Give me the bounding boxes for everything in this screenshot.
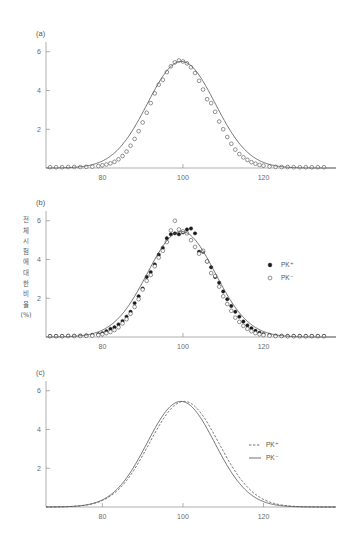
x-tick-label: 120	[258, 513, 270, 520]
data-point	[233, 148, 237, 152]
panel-b: (b)	[36, 198, 46, 207]
data-point	[310, 165, 314, 169]
data-point	[153, 264, 157, 268]
data-point	[189, 238, 193, 242]
legend-label: PK⁻	[266, 454, 279, 461]
x-tick-label: 80	[98, 343, 106, 350]
data-point	[213, 110, 217, 114]
data-point	[109, 162, 113, 166]
data-point	[169, 229, 173, 233]
data-point	[197, 252, 201, 256]
data-point	[209, 101, 213, 105]
data-point	[101, 163, 105, 167]
panel-a: (a)	[36, 29, 46, 38]
data-point	[161, 249, 165, 253]
data-point	[54, 165, 58, 169]
data-point	[258, 163, 262, 167]
data-point	[101, 332, 105, 336]
data-point	[177, 233, 180, 236]
data-point	[209, 271, 213, 275]
x-tick-label: 120	[258, 174, 270, 181]
y-axis-title-char: 율	[23, 301, 29, 309]
data-point	[189, 227, 192, 230]
x-tick-label: 120	[258, 343, 270, 350]
data-point	[230, 304, 233, 307]
y-axis-title-char: 에	[23, 257, 29, 266]
data-point	[304, 334, 308, 338]
data-point	[129, 312, 133, 316]
y-tick-label: 6	[37, 387, 41, 394]
data-point	[201, 88, 205, 92]
data-point	[237, 152, 241, 156]
figure-background	[0, 0, 351, 550]
data-point	[304, 165, 308, 169]
data-point	[105, 163, 109, 167]
panel-c: (c)	[36, 368, 45, 377]
y-axis-title-char: 체	[23, 227, 29, 235]
data-point	[193, 232, 196, 235]
data-point	[48, 165, 52, 169]
data-point	[113, 160, 117, 164]
data-point	[246, 158, 250, 162]
data-point	[149, 273, 153, 277]
y-tick-label: 4	[37, 256, 41, 263]
data-point	[205, 97, 209, 101]
y-axis-title-char: 한	[23, 280, 29, 288]
data-point	[185, 228, 188, 231]
y-axis-title-char: 험	[23, 248, 29, 256]
data-point	[113, 328, 117, 332]
data-point	[149, 101, 153, 105]
data-point	[133, 137, 137, 141]
data-point	[129, 144, 133, 148]
panel-c-label: (c)	[36, 368, 45, 377]
data-point	[105, 331, 109, 335]
data-point	[48, 334, 52, 338]
data-point	[141, 288, 145, 292]
data-point	[238, 315, 241, 318]
data-point	[262, 333, 266, 337]
data-point	[258, 332, 262, 336]
x-tick-label: 100	[177, 174, 189, 181]
y-axis-title-char: 시	[23, 237, 29, 245]
data-point	[117, 325, 121, 329]
figure-three-panel-distributions: (a) (b) (c) 전체시험에대한비율(%) 246801001202468…	[0, 0, 351, 550]
data-point	[254, 331, 258, 335]
y-axis-title-char: 비	[23, 289, 29, 298]
data-point	[133, 305, 137, 309]
y-axis-title-char: (%)	[20, 311, 31, 319]
y-tick-label: 4	[37, 87, 41, 94]
data-point	[233, 316, 237, 320]
data-point	[125, 317, 129, 321]
panel-b-label: (b)	[36, 198, 46, 207]
data-point	[242, 320, 245, 323]
data-point	[310, 334, 314, 338]
data-point	[242, 324, 246, 328]
data-point	[109, 330, 113, 334]
data-point	[133, 301, 136, 304]
data-point	[173, 219, 177, 223]
data-point	[145, 279, 149, 283]
y-tick-label: 4	[37, 426, 41, 433]
data-point	[66, 165, 70, 169]
data-point	[322, 165, 326, 169]
data-point	[229, 142, 233, 146]
data-point	[54, 334, 58, 338]
data-point	[226, 298, 229, 301]
data-point	[193, 245, 197, 249]
data-point	[221, 127, 225, 131]
x-tick-label: 100	[177, 343, 189, 350]
data-point	[197, 79, 201, 83]
y-axis-title-char: 대	[23, 269, 29, 277]
x-tick-label: 80	[98, 174, 106, 181]
data-point	[177, 228, 181, 232]
data-point	[262, 164, 266, 168]
data-point	[137, 297, 141, 301]
y-tick-label: 6	[37, 48, 41, 55]
data-point	[250, 160, 254, 164]
data-point	[322, 334, 326, 338]
y-tick-label: 2	[37, 465, 41, 472]
data-point	[217, 285, 221, 289]
data-point	[237, 320, 241, 324]
data-point	[316, 334, 320, 338]
y-tick-label: 2	[37, 126, 41, 133]
